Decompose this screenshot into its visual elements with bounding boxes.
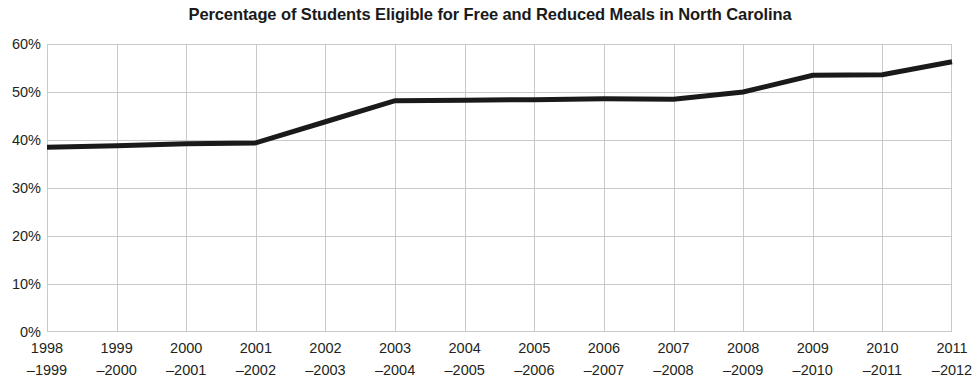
chart-figure: Percentage of Students Eligible for Free… [0,0,980,387]
x-tick-year-end: –2009 [723,359,763,381]
x-tick-year-start: 1998 [27,337,67,359]
x-tick-year-end: –2001 [166,359,206,381]
y-tick-label: 30% [0,180,41,196]
x-tick-year-end: –2005 [445,359,485,381]
x-tick-year-end: –2000 [96,359,136,381]
y-tick-label: 60% [0,36,41,52]
x-tick-label: 2001–2002 [236,337,276,381]
x-tick-year-end: –2006 [514,359,554,381]
x-tick-label: 2006–2007 [584,337,624,381]
y-tick-label: 50% [0,84,41,100]
x-tick-label: 2004–2005 [445,337,485,381]
x-tick-year-start: 2001 [236,337,276,359]
x-tick-year-end: –2007 [584,359,624,381]
x-tick-year-start: 2004 [445,337,485,359]
x-tick-year-end: –2011 [863,359,902,381]
x-tick-label: 2009–2010 [793,337,833,381]
x-tick-year-end: –2002 [236,359,276,381]
x-tick-year-start: 2007 [653,337,693,359]
x-tick-year-start: 2010 [863,337,902,359]
x-tick-year-start: 1999 [96,337,136,359]
x-tick-year-start: 2003 [375,337,415,359]
x-axis: 1998–19991999–20002000–20012001–20022002… [47,337,952,387]
x-tick-year-end: –2012 [932,359,972,381]
x-tick-year-start: 2000 [166,337,206,359]
x-tick-label: 1999–2000 [96,337,136,381]
x-tick-year-end: –2003 [305,359,345,381]
x-tick-year-end: –1999 [27,359,67,381]
x-tick-year-end: –2004 [375,359,415,381]
x-tick-year-start: 2008 [723,337,763,359]
x-tick-year-start: 2009 [793,337,833,359]
x-tick-label: 2005–2006 [514,337,554,381]
x-tick-year-end: –2010 [793,359,833,381]
x-tick-year-start: 2006 [584,337,624,359]
x-tick-label: 2011–2012 [932,337,972,381]
y-tick-label: 20% [0,228,41,244]
x-tick-label: 2008–2009 [723,337,763,381]
x-tick-label: 2007–2008 [653,337,693,381]
y-tick-label: 10% [0,276,41,292]
x-tick-label: 2000–2001 [166,337,206,381]
x-tick-year-end: –2008 [653,359,693,381]
series-polyline [47,62,952,147]
x-tick-year-start: 2005 [514,337,554,359]
x-tick-year-start: 2011 [932,337,972,359]
x-tick-label: 2010–2011 [863,337,902,381]
y-axis: 60%50%40%30%20%10%0% [0,44,41,332]
y-tick-label: 40% [0,132,41,148]
x-tick-label: 1998–1999 [27,337,67,381]
chart-title: Percentage of Students Eligible for Free… [0,5,980,24]
data-series-line [47,44,952,332]
x-tick-label: 2003–2004 [375,337,415,381]
x-tick-label: 2002–2003 [305,337,345,381]
x-tick-year-start: 2002 [305,337,345,359]
plot-area [47,44,952,332]
